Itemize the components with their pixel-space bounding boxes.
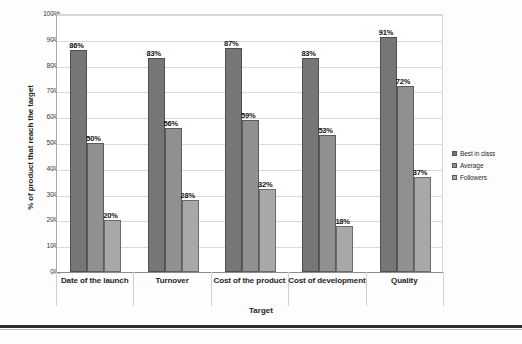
legend-label: Best in class <box>460 150 495 157</box>
bar <box>302 58 319 272</box>
bar-value-label: 50% <box>86 134 100 143</box>
bar <box>104 220 121 272</box>
legend-swatch-icon <box>452 151 457 156</box>
page-rule-shadow <box>0 329 522 330</box>
chart-legend: Best in classAverageFollowers <box>452 150 518 186</box>
x-tick-label: Quality <box>366 276 443 286</box>
bar-value-label: 72% <box>396 77 410 86</box>
bar <box>87 143 104 272</box>
legend-label: Followers <box>460 174 487 181</box>
x-tick-label: Cost of development <box>288 276 365 286</box>
bar-value-label: 53% <box>318 126 332 135</box>
bar-value-label: 37% <box>413 168 427 177</box>
page-rule <box>0 325 522 328</box>
plot-area: 86%50%20%83%56%28%87%59%32%83%53%18%91%7… <box>56 14 443 272</box>
bar-value-label: 91% <box>379 28 393 37</box>
bar-value-label: 86% <box>69 41 83 50</box>
x-axis-title: Target <box>0 306 522 315</box>
bar <box>380 37 397 272</box>
bar <box>397 86 414 272</box>
legend-item: Best in class <box>452 150 518 157</box>
bar-value-label: 87% <box>224 39 238 48</box>
bar-value-label: 18% <box>335 217 349 226</box>
bar <box>259 189 276 272</box>
bar-value-label: 20% <box>103 211 117 220</box>
bar-value-label: 83% <box>147 49 161 58</box>
category-separator <box>56 272 57 306</box>
bar <box>182 200 199 272</box>
bar-value-label: 59% <box>241 111 255 120</box>
legend-item: Average <box>452 162 518 169</box>
bar <box>336 226 353 272</box>
bar-value-label: 32% <box>258 180 272 189</box>
legend-swatch-icon <box>452 175 457 180</box>
x-tick-label: Cost of the product <box>211 276 288 286</box>
x-tick-label: Date of the launch <box>56 276 133 286</box>
legend-item: Followers <box>452 174 518 181</box>
scanned-page: % of product that reach the target 100%9… <box>0 0 522 344</box>
gridline <box>57 15 442 16</box>
bar <box>70 50 87 272</box>
legend-label: Average <box>460 162 483 169</box>
bar <box>319 135 336 272</box>
bar-chart: % of product that reach the target 100%9… <box>0 0 522 322</box>
bar-value-label: 56% <box>164 119 178 128</box>
bar <box>148 58 165 272</box>
bar <box>165 128 182 272</box>
x-axis-line <box>56 272 443 273</box>
legend-swatch-icon <box>452 163 457 168</box>
category-separator <box>443 272 444 306</box>
bar <box>225 48 242 272</box>
bar-value-label: 83% <box>301 49 315 58</box>
x-tick-label: Turnover <box>133 276 210 286</box>
bar <box>242 120 259 272</box>
bar <box>414 177 431 272</box>
bar-value-label: 28% <box>181 191 195 200</box>
